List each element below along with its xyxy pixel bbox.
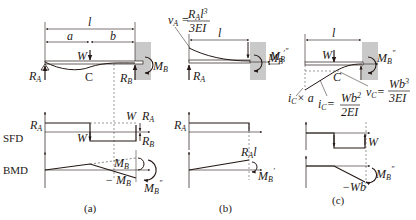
- panel-c: l W C MB″ MB″ iC× a iC= Wb2 2EI vC= Wb3 …: [268, 26, 410, 207]
- fixed-wall-b2: [250, 42, 266, 80]
- bmd-label-mb-prime-a: MB: [113, 156, 129, 171]
- label-mb-c: MB″: [376, 49, 396, 66]
- bmd-line-b: [189, 160, 249, 170]
- sfd-label-ra-right-a: RA: [141, 109, 154, 124]
- formula-ic-lhs: iC=: [318, 97, 335, 112]
- formula-vc-lhs: vC=: [366, 85, 385, 100]
- row-label-sfd: SFD: [3, 132, 23, 144]
- caption-b: (b): [219, 202, 232, 215]
- sfd-label-rb-a: RB: [141, 134, 154, 149]
- panel-a: l a b W RA C RB MB RA W W RA RB: [3, 15, 168, 215]
- formula-va-lhs: vA =: [168, 13, 189, 28]
- bmd-label-mb-c: MB″: [375, 165, 395, 182]
- label-mb: MB: [152, 59, 168, 74]
- sfd-label-w-a: W: [77, 131, 88, 145]
- formula-vc-num: Wb3: [389, 77, 409, 91]
- caption-a: (a): [84, 202, 97, 215]
- bmd-label-neg-wb-c: −Wb: [342, 180, 366, 194]
- label-point-c: C: [85, 70, 93, 84]
- label-l-c: l: [332, 26, 336, 40]
- label-rb: RB: [119, 71, 132, 86]
- label-w-c: W: [322, 48, 333, 62]
- caption-c: (c): [332, 194, 345, 207]
- sfd-line-b: [189, 123, 249, 131]
- row-label-bmd: BMD: [3, 164, 28, 176]
- formula-ic-den: 2EI: [341, 105, 359, 119]
- sfd-label-ra-a: RA: [29, 118, 42, 133]
- bmd-moment-arc-a1: [138, 158, 144, 170]
- formula-ic-num: Wb2: [341, 91, 361, 105]
- bmd-label-mb-b: MB′: [257, 167, 275, 184]
- leader-ic: [320, 80, 327, 96]
- label-ra: RA: [28, 69, 41, 84]
- sfd-line-c: [306, 133, 365, 148]
- beam-diagram-figure: l a b W RA C RB MB RA W W RA RB: [0, 0, 416, 220]
- bmd-dashed-a: [90, 158, 136, 164]
- fixed-wall-c: [362, 42, 378, 80]
- sfd-label-w-top-a: W: [126, 109, 137, 123]
- label-ic-times-a: iC× a: [288, 91, 314, 106]
- leader-va: [175, 27, 190, 48]
- formula-vc-den: 3EI: [388, 91, 407, 105]
- bmd-moment-arc-b: [252, 162, 257, 172]
- formula-va-num: RAl3: [187, 7, 208, 22]
- sfd-label-ra-b: RA: [173, 118, 186, 133]
- sfd-label-w-c: W: [368, 135, 379, 149]
- deflection-curve-b: [189, 48, 250, 61]
- label-l-b: l: [218, 26, 222, 40]
- formula-va-den: 3EI: [188, 21, 207, 35]
- label-l: l: [88, 15, 92, 29]
- bmd-label-ral-b: RAl: [240, 145, 257, 160]
- label-b: b: [110, 29, 116, 43]
- bmd-label-mb-dprime-a: MB″: [143, 179, 163, 196]
- label-a: a: [67, 29, 73, 43]
- panel-b: vA = RAl3 3EI l RA MB′ RA RAl MB′ (b): [168, 7, 285, 215]
- label-mb-left-c: MB″: [269, 47, 289, 64]
- label-ra-b: RA: [192, 69, 205, 84]
